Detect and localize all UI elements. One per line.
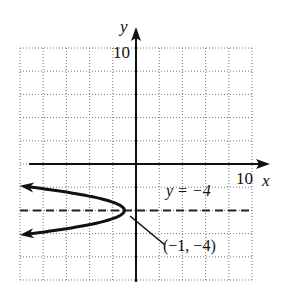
y-max-tick-label: 10 [113, 43, 130, 62]
y-axis-label: y [118, 17, 128, 36]
symmetry-line-label: y = −4 [164, 182, 211, 200]
x-max-tick-label: 10 [236, 169, 253, 188]
graph: y 10 10 x y = −4 (−1, −4) [0, 0, 288, 297]
vertex-label: (−1, −4) [163, 237, 216, 255]
x-axis-label: x [261, 171, 270, 190]
